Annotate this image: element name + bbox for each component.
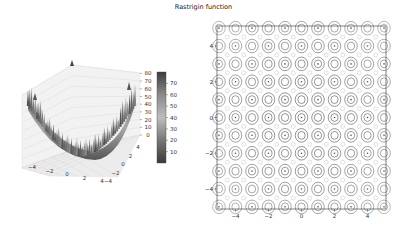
colorbar-tick-label: 20 — [170, 137, 177, 143]
surface-3d-plot: 01020304050607080−4−2024−4−2024 — [22, 60, 152, 184]
z-tick-label: 80 — [145, 70, 152, 76]
z-tick-label: 30 — [145, 109, 152, 115]
figure-canvas: 01020304050607080−4−2024−4−2024 70605040… — [0, 0, 407, 226]
colorbar-tick-label: 30 — [170, 126, 177, 132]
z-tick-label: 50 — [145, 94, 152, 100]
y-tick-label: −4 — [104, 178, 113, 184]
z-tick-label: 0 — [146, 132, 150, 138]
colorbar-tick-label: 50 — [170, 103, 177, 109]
x-tick-label: 0 — [65, 171, 69, 177]
x-tick-label: 2 — [83, 175, 87, 181]
z-tick-label: 40 — [145, 101, 152, 107]
x-tick-label: −2 — [45, 168, 53, 174]
y-tick-label: −4 — [205, 186, 214, 192]
y-tick-label: 0 — [210, 115, 214, 121]
z-tick-label: 20 — [145, 117, 152, 123]
y-tick-label: 2 — [129, 153, 133, 159]
z-tick-label: 10 — [145, 124, 152, 130]
y-tick-label: 4 — [136, 144, 140, 150]
x-tick-label: −2 — [264, 213, 272, 219]
x-tick-label: 2 — [333, 213, 337, 219]
colorbar-tick-label: 60 — [170, 92, 177, 98]
contour-plot: −4−2024420−2−4 — [205, 21, 390, 219]
y-tick-label: −2 — [205, 150, 213, 156]
z-tick-label: 70 — [145, 78, 152, 84]
y-tick-label: 4 — [210, 43, 214, 49]
colorbar-tick-label: 10 — [170, 149, 177, 155]
x-tick-label: 0 — [300, 213, 304, 219]
x-tick-label: −4 — [28, 164, 37, 170]
colorbar-tick-label: 70 — [170, 80, 177, 86]
z-tick-label: 60 — [145, 86, 152, 92]
x-tick-label: −4 — [231, 213, 240, 219]
colorbar: 70605040302010 — [157, 72, 177, 163]
x-tick-label: 4 — [366, 213, 370, 219]
y-tick-label: 2 — [210, 79, 214, 85]
colorbar-tick-label: 40 — [170, 115, 177, 121]
y-tick-label: −2 — [111, 170, 119, 176]
y-tick-label: 0 — [121, 161, 125, 167]
